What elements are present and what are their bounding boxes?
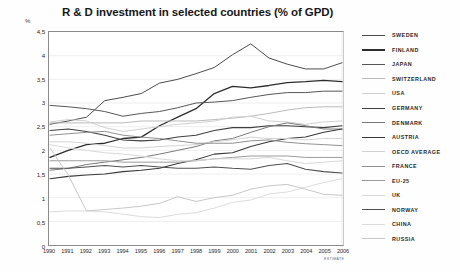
x-axis-tick-labels: 1990199119921993199419951996199719981999…: [48, 248, 344, 260]
series-line-finland: [50, 80, 342, 157]
series-lines: [49, 32, 343, 245]
y-axis-tick: 1,5: [23, 171, 45, 178]
legend-item-label: AUSTRIA: [392, 134, 419, 140]
legend-swatch-icon: [362, 122, 385, 123]
legend-swatch-icon: [362, 166, 385, 167]
series-line-china: [50, 179, 342, 218]
legend-swatch-icon: [362, 195, 385, 196]
legend-item-label: DENMARK: [392, 120, 423, 126]
y-axis-tick: 2,5: [23, 123, 45, 130]
legend-swatch-icon: [362, 224, 385, 225]
y-axis-tick-labels: 4,543,532,521,510,50: [20, 31, 45, 246]
legend-item-label: EU-25: [392, 178, 410, 184]
x-axis-tick: 2006: [329, 248, 357, 254]
legend-item-oecd-average[interactable]: OECD AVERAGE: [362, 144, 458, 159]
y-axis-tick: 1: [23, 195, 45, 202]
series-line-germany: [50, 126, 342, 141]
legend-swatch-icon: [362, 209, 385, 210]
legend-item-sweden[interactable]: SWEDEN: [362, 28, 458, 43]
legend-swatch-icon: [362, 151, 385, 152]
legend-item-label: SWITZERLAND: [392, 76, 436, 82]
estimate-note: ESTIMATE: [324, 257, 344, 261]
legend-item-label: JAPAN: [392, 61, 412, 67]
legend-item-denmark[interactable]: DENMARK: [362, 115, 458, 130]
y-axis-tick: 3: [23, 99, 45, 106]
legend-item-label: FRANCE: [392, 163, 417, 169]
chart-page: R & D investment in selected countries (…: [0, 0, 460, 272]
legend-item-france[interactable]: FRANCE: [362, 159, 458, 174]
series-line-austria: [50, 129, 342, 179]
legend-item-usa[interactable]: USA: [362, 86, 458, 101]
legend-item-label: NORWAY: [392, 207, 418, 213]
legend-swatch-icon: [362, 64, 385, 65]
legend-item-russia[interactable]: RUSSIA: [362, 232, 458, 247]
legend-swatch-icon: [362, 137, 385, 138]
series-line-russia: [50, 148, 342, 211]
series-line-usa: [50, 116, 342, 131]
legend-item-label: GERMANY: [392, 105, 423, 111]
legend-swatch-icon: [362, 78, 385, 79]
legend-item-norway[interactable]: NORWAY: [362, 203, 458, 218]
y-axis-tick: 2: [23, 147, 45, 154]
page-title: R & D investment in selected countries (…: [62, 6, 352, 18]
legend-swatch-icon: [362, 238, 385, 239]
legend-item-label: OECD AVERAGE: [392, 149, 441, 155]
legend-item-finland[interactable]: FINLAND: [362, 43, 458, 58]
y-axis-tick: 0,5: [23, 219, 45, 226]
y-axis-tick: 4: [23, 52, 45, 59]
series-line-japan: [50, 91, 342, 116]
legend-swatch-icon: [362, 180, 385, 181]
legend-swatch-icon: [362, 35, 385, 36]
legend-item-label: UK: [392, 192, 401, 198]
y-axis-unit-label: %: [25, 18, 30, 24]
series-line-denmark: [50, 123, 342, 170]
legend-item-label: USA: [392, 90, 405, 96]
legend-item-label: CHINA: [392, 221, 411, 227]
legend-item-germany[interactable]: GERMANY: [362, 101, 458, 116]
legend-item-china[interactable]: CHINA: [362, 217, 458, 232]
legend: SWEDENFINLANDJAPANSWITZERLANDUSAGERMANYD…: [362, 28, 458, 246]
legend-item-label: SWEDEN: [392, 32, 418, 38]
legend-item-japan[interactable]: JAPAN: [362, 57, 458, 72]
series-line-sweden: [50, 44, 342, 124]
legend-swatch-icon: [362, 108, 385, 109]
plot-area: [48, 31, 344, 246]
legend-item-uk[interactable]: UK: [362, 188, 458, 203]
legend-item-switzerland[interactable]: SWITZERLAND: [362, 72, 458, 87]
legend-item-austria[interactable]: AUSTRIA: [362, 130, 458, 145]
y-axis-tick: 4,5: [23, 28, 45, 35]
legend-item-label: RUSSIA: [392, 236, 415, 242]
legend-swatch-icon: [362, 49, 385, 51]
legend-item-eu-25[interactable]: EU-25: [362, 173, 458, 188]
legend-swatch-icon: [362, 93, 385, 94]
legend-item-label: FINLAND: [392, 47, 419, 53]
y-axis-tick: 3,5: [23, 76, 45, 83]
series-line-norway: [50, 164, 342, 173]
